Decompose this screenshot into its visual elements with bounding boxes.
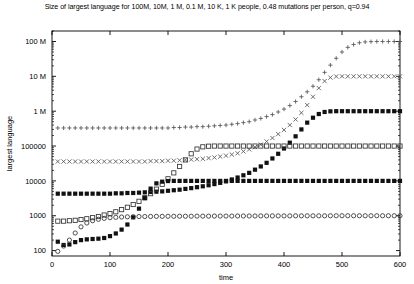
marker-cross — [137, 159, 141, 163]
marker-cross — [195, 157, 199, 161]
marker-open-circle — [120, 215, 124, 219]
marker-open-square — [357, 144, 361, 148]
marker-open-circle — [276, 214, 280, 218]
marker-filled-square — [299, 179, 303, 183]
marker-open-square — [67, 219, 71, 223]
marker-filled-square — [108, 192, 112, 196]
marker-filled-square — [166, 179, 170, 183]
marker-plus — [357, 41, 361, 45]
marker-open-circle — [85, 221, 89, 225]
y-tick-label: 100 — [33, 246, 46, 255]
marker-cross — [166, 159, 170, 163]
marker-filled-square — [189, 179, 193, 183]
marker-plus — [311, 84, 315, 88]
marker-plus — [253, 118, 257, 122]
marker-filled-square — [352, 179, 356, 183]
marker-open-square — [276, 144, 280, 148]
marker-open-circle — [270, 214, 274, 218]
marker-open-square — [172, 171, 176, 175]
marker-plus — [259, 116, 263, 120]
marker-filled-square — [253, 179, 257, 183]
marker-cross — [207, 156, 211, 160]
marker-plus — [334, 56, 338, 60]
data-series — [56, 144, 402, 223]
marker-filled-square — [137, 207, 141, 211]
marker-filled-square — [207, 179, 211, 183]
marker-filled-square — [392, 179, 396, 183]
marker-filled-square — [340, 109, 344, 113]
marker-plus — [183, 125, 187, 129]
y-tick-label: 10000 — [25, 177, 46, 186]
marker-filled-square — [311, 116, 315, 120]
marker-filled-square — [311, 179, 315, 183]
marker-open-square — [386, 144, 390, 148]
marker-plus — [323, 70, 327, 74]
marker-cross — [386, 74, 390, 78]
marker-open-square — [311, 144, 315, 148]
marker-filled-square — [67, 192, 71, 196]
marker-cross — [114, 159, 118, 163]
marker-plus — [154, 126, 158, 130]
marker-cross — [189, 157, 193, 161]
marker-plus — [282, 107, 286, 111]
marker-filled-square — [386, 179, 390, 183]
marker-filled-square — [346, 109, 350, 113]
marker-cross — [381, 74, 385, 78]
marker-open-circle — [218, 214, 222, 218]
marker-filled-square — [79, 238, 83, 242]
marker-filled-square — [73, 240, 77, 244]
marker-filled-square — [67, 242, 71, 246]
marker-cross — [96, 159, 100, 163]
marker-open-square — [137, 199, 141, 203]
data-series — [56, 39, 402, 130]
marker-open-square — [381, 144, 385, 148]
marker-open-circle — [282, 214, 286, 218]
marker-cross — [270, 136, 274, 140]
marker-cross — [160, 159, 164, 163]
marker-plus — [85, 126, 89, 130]
marker-cross — [212, 155, 216, 159]
chart-figure: Size of largest language for 100M, 10M, … — [0, 0, 414, 284]
marker-cross — [352, 74, 356, 78]
marker-cross — [120, 159, 124, 163]
marker-open-circle — [56, 249, 60, 253]
marker-open-square — [178, 164, 182, 168]
marker-plus — [166, 126, 170, 130]
marker-plus — [131, 126, 135, 130]
marker-filled-square — [56, 240, 60, 244]
marker-filled-square — [91, 192, 95, 196]
marker-plus — [363, 40, 367, 44]
x-tick-label: 300 — [220, 260, 233, 269]
marker-filled-square — [375, 179, 379, 183]
marker-filled-square — [328, 179, 332, 183]
marker-open-circle — [67, 238, 71, 242]
marker-open-square — [334, 144, 338, 148]
marker-open-circle — [189, 214, 193, 218]
marker-open-circle — [357, 214, 361, 218]
marker-plus — [294, 99, 298, 103]
marker-plus — [375, 39, 379, 43]
marker-plus — [56, 126, 60, 130]
plot-border — [52, 31, 400, 256]
marker-plus — [340, 50, 344, 54]
axis-frame — [52, 31, 400, 256]
marker-plus — [218, 123, 222, 127]
marker-filled-square — [265, 161, 269, 165]
marker-plus — [265, 114, 269, 118]
marker-open-circle — [305, 214, 309, 218]
marker-open-circle — [73, 231, 77, 235]
marker-open-circle — [328, 214, 332, 218]
data-series-layer — [56, 39, 402, 253]
marker-plus — [137, 126, 141, 130]
marker-plus — [143, 126, 147, 130]
marker-cross — [73, 159, 77, 163]
marker-filled-square — [166, 189, 170, 193]
marker-filled-square — [149, 187, 153, 191]
marker-filled-square — [241, 179, 245, 183]
marker-filled-square — [143, 196, 147, 200]
marker-cross — [253, 145, 257, 149]
marker-filled-square — [346, 179, 350, 183]
marker-open-square — [363, 144, 367, 148]
marker-filled-square — [195, 185, 199, 189]
marker-filled-square — [189, 186, 193, 190]
